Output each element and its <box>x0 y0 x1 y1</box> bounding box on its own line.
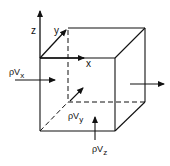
x-axis-label: x <box>86 58 91 69</box>
flux-z-sub: z <box>103 148 107 157</box>
y-axis-label: y <box>54 25 59 36</box>
flux-y-sub: y <box>79 115 83 124</box>
control-volume-diagram: z x y ρVx ρVy ρVz <box>0 0 170 166</box>
cube-edge-top-right-diagonal <box>115 28 145 58</box>
cube-edge-bottom-right-diagonal <box>115 102 145 131</box>
flux-x-label: ρVx <box>9 67 24 80</box>
y-axis-arrow <box>40 30 66 58</box>
flux-z-base: ρV <box>92 144 103 154</box>
flux-z-label: ρVz <box>92 144 107 157</box>
flux-x-sub: x <box>20 71 24 80</box>
flux-y-arrow <box>70 88 83 101</box>
flux-y-label: ρVy <box>68 111 83 124</box>
cube-hidden-edge-diagonal <box>40 102 68 131</box>
flux-y-base: ρV <box>68 111 79 121</box>
flux-x-base: ρV <box>9 67 20 77</box>
z-axis-label: z <box>31 25 36 36</box>
